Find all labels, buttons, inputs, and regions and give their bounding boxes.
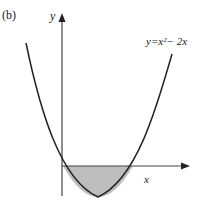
y-axis-label: y: [49, 9, 56, 23]
shaded-area: [63, 166, 133, 197]
x-axis-label: x: [143, 173, 149, 185]
x-axis-arrow-icon: [181, 163, 190, 170]
curve-label: y=x²− 2x: [145, 35, 187, 47]
y-axis-arrow-icon: [59, 13, 66, 22]
panel-label: (b): [2, 8, 16, 22]
parabola-diagram: (b) y x y=x²− 2x: [0, 0, 200, 203]
